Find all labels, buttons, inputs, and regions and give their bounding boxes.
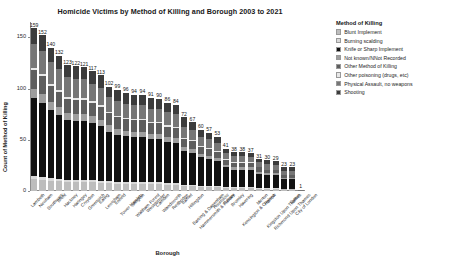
bar-segment[interactable] (148, 109, 154, 122)
bar-segment[interactable] (123, 93, 129, 104)
bar-segment[interactable] (81, 121, 87, 179)
bar-segment[interactable] (123, 119, 129, 130)
bar-stack[interactable]: 67 (189, 122, 195, 191)
bar-segment[interactable] (173, 143, 179, 183)
bar-column[interactable]: 38 (238, 22, 246, 191)
bar-segment[interactable] (189, 153, 195, 185)
bar-column[interactable]: 94 (130, 22, 138, 191)
bar-segment[interactable] (198, 137, 204, 146)
bar-segment[interactable] (189, 122, 195, 129)
bar-segment[interactable] (114, 117, 120, 128)
bar-column[interactable]: 67 (188, 22, 196, 191)
legend-item[interactable]: Physical Assault, no weapons (336, 81, 448, 87)
bar-segment[interactable] (148, 123, 154, 133)
bar-column[interactable]: 38 (230, 22, 238, 191)
bar-stack[interactable]: 113 (98, 75, 104, 191)
bar-segment[interactable] (89, 182, 95, 191)
bar-column[interactable]: 23 (280, 22, 288, 191)
bar-segment[interactable] (56, 56, 62, 69)
bar-segment[interactable] (181, 151, 187, 185)
bar-segment[interactable] (281, 179, 287, 189)
bar-column[interactable]: 23 (288, 22, 296, 191)
bar-stack[interactable]: 30 (264, 160, 270, 191)
bar-stack[interactable]: 1 (298, 190, 304, 191)
bar-segment[interactable] (198, 187, 204, 191)
bar-column[interactable]: 84 (172, 22, 180, 191)
bar-segment[interactable] (231, 170, 237, 187)
bar-segment[interactable] (173, 185, 179, 191)
bar-stack[interactable]: 57 (206, 133, 212, 191)
bar-segment[interactable] (214, 161, 220, 186)
bar-segment[interactable] (89, 123, 95, 179)
bar-segment[interactable] (48, 110, 54, 178)
bar-segment[interactable] (181, 139, 187, 147)
bar-segment[interactable] (98, 126, 104, 180)
bar-segment[interactable] (81, 100, 87, 114)
bar-segment[interactable] (181, 186, 187, 191)
bar-segment[interactable] (39, 76, 45, 93)
bar-segment[interactable] (73, 121, 79, 179)
bar-segment[interactable] (64, 120, 70, 179)
legend-item[interactable]: Not known/NNot Recorded (336, 55, 448, 61)
bar-segment[interactable] (56, 69, 62, 89)
bar-segment[interactable] (214, 187, 220, 191)
bar-stack[interactable]: 31 (256, 159, 262, 191)
bar-segment[interactable] (189, 130, 195, 140)
bar-segment[interactable] (289, 189, 295, 191)
bar-stack[interactable]: 96 (123, 93, 129, 191)
bar-segment[interactable] (81, 79, 87, 97)
bar-segment[interactable] (139, 184, 145, 191)
bar-segment[interactable] (106, 97, 112, 112)
bar-segment[interactable] (198, 147, 204, 154)
bar-segment[interactable] (173, 128, 179, 138)
bar-segment[interactable] (98, 75, 104, 87)
bar-segment[interactable] (64, 77, 70, 96)
bar-segment[interactable] (148, 98, 154, 109)
bar-segment[interactable] (123, 104, 129, 118)
bar-stack[interactable]: 140 (48, 48, 54, 191)
bar-column[interactable]: 94 (138, 22, 146, 191)
bar-segment[interactable] (281, 189, 287, 191)
bar-stack[interactable]: 132 (56, 56, 62, 191)
bar-stack[interactable]: 38 (239, 152, 245, 191)
bar-segment[interactable] (31, 89, 37, 98)
bar-segment[interactable] (48, 86, 54, 102)
bar-segment[interactable] (131, 184, 137, 191)
legend-item[interactable]: Other Method of Killing (336, 63, 448, 69)
bar-segment[interactable] (56, 181, 62, 191)
bar-segment[interactable] (73, 79, 79, 97)
bar-segment[interactable] (106, 183, 112, 191)
bar-segment[interactable] (98, 107, 104, 120)
bar-segment[interactable] (156, 184, 162, 191)
bar-segment[interactable] (156, 99, 162, 109)
bar-stack[interactable]: 29 (273, 161, 279, 191)
bar-stack[interactable]: 117 (89, 71, 95, 191)
bar-column[interactable]: 30 (263, 22, 271, 191)
bar-segment[interactable] (164, 112, 170, 125)
bar-column[interactable]: 132 (55, 22, 63, 191)
bar-column[interactable]: 91 (147, 22, 155, 191)
bar-column[interactable]: 140 (47, 22, 55, 191)
bar-column[interactable]: 159 (30, 22, 38, 191)
bar-segment[interactable] (206, 187, 212, 191)
bar-segment[interactable] (248, 188, 254, 191)
bar-stack[interactable]: 41 (223, 149, 229, 191)
bar-segment[interactable] (164, 185, 170, 191)
bar-column[interactable]: 113 (97, 22, 105, 191)
bar-stack[interactable]: 123 (64, 65, 70, 191)
bar-column[interactable]: 41 (222, 22, 230, 191)
bar-segment[interactable] (173, 105, 179, 114)
bar-column[interactable]: 99 (113, 22, 121, 191)
bar-column[interactable]: 72 (180, 22, 188, 191)
bar-segment[interactable] (156, 109, 162, 122)
bar-segment[interactable] (48, 62, 54, 84)
bar-stack[interactable]: 72 (181, 117, 187, 191)
bar-stack[interactable]: 23 (289, 167, 295, 191)
bar-segment[interactable] (248, 170, 254, 187)
bar-segment[interactable] (223, 188, 229, 191)
bar-segment[interactable] (48, 102, 54, 110)
bar-segment[interactable] (181, 127, 187, 138)
bar-segment[interactable] (131, 95, 137, 105)
bar-segment[interactable] (164, 127, 170, 137)
legend-item[interactable]: Knife or Sharp Implement (336, 46, 448, 52)
